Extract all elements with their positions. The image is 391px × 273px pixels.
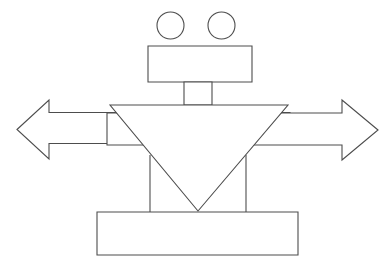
neck-rectangle — [184, 82, 212, 105]
head-rectangle — [148, 46, 252, 82]
left-eye-circle — [157, 12, 184, 39]
figure-canvas: Line drawing of a robot-like figure comp… — [0, 0, 391, 273]
base-rectangle — [97, 212, 298, 255]
torso-triangle — [110, 105, 288, 211]
right-eye-circle — [208, 12, 235, 39]
geometric-figure-drawing: Line drawing of a robot-like figure comp… — [0, 0, 391, 273]
